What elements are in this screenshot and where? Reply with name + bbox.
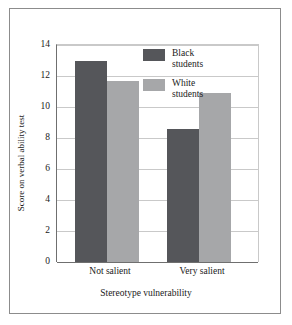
y-tick-label-8: 8 [45,132,50,142]
bar-white-very-salient [199,93,231,262]
y-tick-label-10: 10 [41,101,51,111]
y-tick-label-12: 12 [41,70,51,80]
legend-item-black-students: Black students [143,48,203,69]
bar-black-very-salient [167,129,199,262]
legend-swatch-white-icon [143,79,165,91]
y-axis-title: Score on verbal ability test [16,63,26,263]
y-tick-label-4: 4 [45,194,50,204]
bar-black-not-salient [75,61,107,263]
legend-label-white-line2: students [172,89,203,100]
y-tick-label-6: 6 [45,163,50,173]
legend-label-black-line1: Black [172,48,203,59]
chart-figure: 14 12 10 8 6 4 2 0 Score on verbal abili… [0,0,292,325]
legend-label-black-line2: students [172,59,203,70]
y-tick-label-0: 0 [45,256,50,266]
legend: Black students White students [143,48,203,108]
legend-swatch-black-icon [143,49,165,61]
x-axis-title: Stereotype vulnerability [0,288,292,298]
y-tick-label-2: 2 [45,225,50,235]
legend-label-white-line1: White [172,78,203,89]
y-tick-label-14: 14 [41,39,51,49]
y-axis: 14 12 10 8 6 4 2 0 [0,0,56,325]
gridline-0-baseline [57,262,258,263]
x-tick-label-very-salient: Very salient [148,266,256,276]
bar-group-not-salient [75,45,147,262]
bar-white-not-salient [107,81,139,262]
legend-item-white-students: White students [143,78,203,99]
